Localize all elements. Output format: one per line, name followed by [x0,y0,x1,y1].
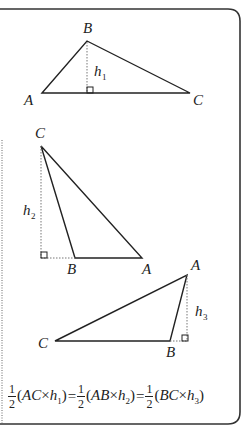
paren-close: ) [199,387,204,403]
triangle-3-vertex-c: C [38,335,49,351]
fraction-denominator: 2 [146,398,152,410]
fraction-one-half-3: 1 2 [145,383,153,410]
triangle-1-height-label: h [94,63,102,79]
triangle-3: A B C h 3 [38,257,208,360]
area-equality-formula: 1 2 (AC×h1) = 1 2 (AB×h2) = 1 2 (BC×h3) [8,380,244,412]
diagram-canvas: B A C h 1 C B A h 2 A B C h 3 [0,0,249,430]
times-sign: × [179,387,187,403]
formula-term-2: (AB×h2) [86,387,135,406]
fraction-denominator: 2 [9,398,15,410]
triangle-2-vertex-b: B [67,261,76,277]
formula-term-3: (BC×h3) [154,387,204,406]
triangle-2-shape [41,146,142,258]
segment-bc: BC [159,387,178,403]
times-sign: × [41,387,49,403]
segment-ac: AC [22,387,41,403]
fraction-denominator: 2 [78,398,84,410]
triangle-3-vertex-a: A [190,257,201,273]
triangle-2-vertex-a: A [141,261,152,277]
paren-close: ) [62,387,67,403]
triangle-1-height-subscript: 1 [102,72,107,82]
segment-ab: AB [91,387,109,403]
times-sign: × [109,387,117,403]
triangle-1-vertex-b: B [83,20,92,36]
fraction-numerator: 1 [146,383,152,395]
triangle-2-height-label: h [23,202,31,218]
triangle-1-right-angle-marker [87,87,93,93]
triangle-2: C B A h 2 [23,125,152,277]
triangle-1: B A C h 1 [23,20,204,108]
fraction-one-half-1: 1 2 [8,383,16,410]
fraction-numerator: 1 [78,383,84,395]
triangle-3-shape [55,275,187,341]
equals-sign: = [136,388,144,405]
fraction-one-half-2: 1 2 [77,383,85,410]
fraction-numerator: 1 [9,383,15,395]
formula-term-1: (AC×h1) [17,387,67,406]
triangle-3-height-subscript: 3 [203,312,208,322]
height-symbol: h [187,387,195,403]
triangle-1-shape [42,41,190,93]
triangle-3-height-label: h [195,303,203,319]
triangle-1-vertex-c: C [193,92,204,108]
paren-close: ) [130,387,135,403]
triangle-2-right-angle-marker [41,252,47,258]
triangle-2-height-subscript: 2 [31,211,36,221]
triangle-1-vertex-a: A [23,92,34,108]
frame-border [0,9,240,424]
equals-sign: = [68,388,76,405]
triangle-3-vertex-b: B [166,344,175,360]
triangle-2-vertex-c: C [35,125,46,141]
